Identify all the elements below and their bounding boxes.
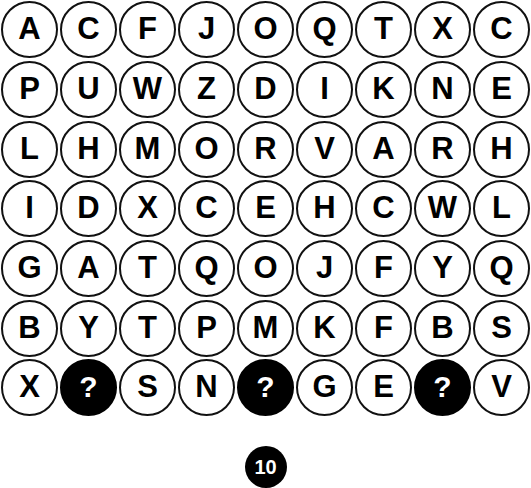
letter-cell: X [118,179,177,239]
letter-glyph: Z [197,73,216,104]
letter-disc[interactable]: I [1,180,58,237]
letter-disc[interactable]: T [119,300,176,357]
letter-disc[interactable]: S [473,300,530,357]
letter-cell: F [354,298,413,358]
letter-disc[interactable]: F [355,300,412,357]
letter-disc[interactable]: X [414,1,471,58]
letter-glyph: G [17,252,41,283]
letter-disc[interactable]: C [355,180,412,237]
letter-cell: O [236,239,295,299]
letter-disc[interactable]: C [60,1,117,58]
letter-glyph: T [138,312,157,343]
letter-disc[interactable]: A [1,1,58,58]
letter-disc[interactable]: D [237,61,294,118]
letter-cell: Y [413,239,472,299]
letter-disc[interactable]: E [237,180,294,237]
letter-disc[interactable]: X [1,359,58,416]
letter-cell: C [472,0,531,60]
letter-disc[interactable]: E [355,359,412,416]
letter-disc[interactable]: G [296,359,353,416]
letter-cell: N [413,60,472,120]
letter-cell: T [118,298,177,358]
letter-disc[interactable]: E [473,61,530,118]
letter-disc[interactable]: M [237,300,294,357]
letter-disc[interactable]: Q [473,240,530,297]
letter-disc[interactable]: K [355,61,412,118]
letter-disc[interactable]: L [473,180,530,237]
letter-cell: J [177,0,236,60]
letter-cell: L [0,119,59,179]
letter-disc[interactable]: H [296,180,353,237]
letter-disc[interactable]: S [119,359,176,416]
letter-disc[interactable]: A [60,240,117,297]
letter-disc[interactable]: T [355,1,412,58]
letter-disc[interactable]: O [237,240,294,297]
letter-disc[interactable]: B [1,300,58,357]
letter-disc[interactable]: V [296,121,353,178]
letter-disc[interactable]: U [60,61,117,118]
letter-disc[interactable]: W [119,61,176,118]
letter-glyph: F [374,312,393,343]
letter-disc[interactable]: R [414,121,471,178]
letter-disc[interactable]: R [237,121,294,178]
letter-disc[interactable]: N [414,61,471,118]
letter-disc[interactable]: Q [296,1,353,58]
letter-disc[interactable]: J [296,240,353,297]
letter-cell: I [0,179,59,239]
letter-cell: ? [413,358,472,418]
letter-disc[interactable]: B [414,300,471,357]
letter-disc[interactable]: T [119,240,176,297]
letter-cell: C [59,0,118,60]
letter-glyph: C [77,13,99,44]
letter-disc[interactable]: Q [178,240,235,297]
letter-disc[interactable]: Y [414,240,471,297]
letter-disc[interactable]: K [296,300,353,357]
letter-disc[interactable]: Y [60,300,117,357]
letter-disc[interactable]: P [1,61,58,118]
letter-disc[interactable]: D [60,180,117,237]
letter-glyph: H [313,192,335,223]
letter-cell: K [354,60,413,120]
letter-disc[interactable]: G [1,240,58,297]
letter-glyph: A [77,252,99,283]
letter-glyph: T [138,252,157,283]
letter-disc[interactable]: H [473,121,530,178]
letter-disc[interactable]: P [178,300,235,357]
letter-disc[interactable]: J [178,1,235,58]
letter-disc[interactable]: I [296,61,353,118]
letter-disc-unknown[interactable]: ? [60,359,117,416]
letter-disc[interactable]: L [1,121,58,178]
letter-cell: C [354,179,413,239]
letter-cell: C [177,179,236,239]
letter-disc[interactable]: A [355,121,412,178]
letter-disc[interactable]: O [237,1,294,58]
letter-cell: ? [236,358,295,418]
letter-cell: Z [177,60,236,120]
letter-disc[interactable]: N [178,359,235,416]
letter-glyph: C [372,192,394,223]
letter-glyph: Y [432,252,453,283]
question-mark-glyph: ? [256,372,274,402]
letter-disc[interactable]: F [119,1,176,58]
letter-disc[interactable]: X [119,180,176,237]
letter-disc[interactable]: H [60,121,117,178]
letter-glyph: J [198,13,215,44]
letter-disc[interactable]: Z [178,61,235,118]
letter-cell: H [59,119,118,179]
counter-badge[interactable]: 10 [245,446,287,488]
letter-disc-unknown[interactable]: ? [237,359,294,416]
letter-glyph: X [432,13,453,44]
letter-glyph: F [374,252,393,283]
letter-disc[interactable]: F [355,240,412,297]
letter-disc[interactable]: C [178,180,235,237]
letter-disc[interactable]: M [119,121,176,178]
letter-disc[interactable]: O [178,121,235,178]
letter-disc-unknown[interactable]: ? [414,359,471,416]
letter-cell: W [413,179,472,239]
letter-disc[interactable]: V [473,359,530,416]
letter-disc[interactable]: C [473,1,530,58]
letter-disc[interactable]: W [414,180,471,237]
letter-glyph: E [255,192,276,223]
letter-glyph: I [320,73,329,104]
letter-cell: O [177,119,236,179]
